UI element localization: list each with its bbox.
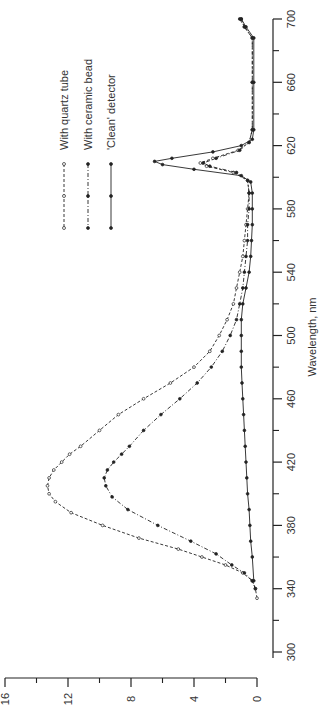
data-point-marker <box>248 208 251 211</box>
data-point-marker <box>226 318 229 321</box>
data-point-marker <box>248 271 251 274</box>
data-point-marker <box>104 484 107 487</box>
series-line <box>155 19 254 581</box>
data-point-marker <box>243 429 246 432</box>
data-point-marker <box>68 453 71 456</box>
wavelength-tick-label: 500 <box>285 326 297 344</box>
data-point-marker <box>120 453 123 456</box>
data-point-marker <box>243 572 246 575</box>
legend: With quartz tubeWith ceramic bead'Clean'… <box>58 59 117 230</box>
series-layer <box>46 18 258 600</box>
data-point-marker <box>235 287 238 290</box>
data-point-marker <box>161 163 164 166</box>
intensity-tick-label: 0 <box>251 696 263 702</box>
data-point-marker <box>193 366 196 369</box>
legend-marker <box>63 227 66 230</box>
data-point-marker <box>201 556 204 559</box>
data-point-marker <box>224 564 227 567</box>
data-point-marker <box>242 413 245 416</box>
legend-marker <box>110 195 113 198</box>
data-point-marker <box>246 223 249 226</box>
legend-item: With ceramic bead <box>82 59 94 230</box>
data-point-marker <box>254 587 257 590</box>
data-point-marker <box>240 174 243 177</box>
legend-marker <box>63 163 66 166</box>
legend-label: 'Clean' detector <box>105 74 117 150</box>
data-point-marker <box>48 477 51 480</box>
legend-item: 'Clean' detector <box>105 74 117 230</box>
data-point-marker <box>210 366 213 369</box>
data-point-marker <box>243 239 246 242</box>
data-point-marker <box>106 469 109 472</box>
data-point-marker <box>248 192 251 195</box>
data-point-marker <box>240 318 243 321</box>
data-point-marker <box>142 429 145 432</box>
data-point-marker <box>238 271 241 274</box>
data-point-marker <box>111 496 114 499</box>
data-point-marker <box>232 303 235 306</box>
data-point-marker <box>212 151 215 154</box>
data-point-marker <box>171 157 174 160</box>
data-point-marker <box>256 597 259 600</box>
data-point-marker <box>241 382 244 385</box>
data-point-marker <box>112 461 115 464</box>
data-point-marker <box>244 445 247 448</box>
data-point-marker <box>177 548 180 551</box>
data-point-marker <box>240 350 243 353</box>
legend-label: With quartz tube <box>58 70 70 150</box>
data-point-marker <box>103 477 106 480</box>
intensity-tick-label: 12 <box>62 693 74 705</box>
data-point-marker <box>218 334 221 337</box>
data-point-marker <box>245 287 248 290</box>
series-line <box>48 19 258 598</box>
data-point-marker <box>252 579 255 582</box>
data-point-marker <box>251 192 254 195</box>
data-point-marker <box>249 540 252 543</box>
legend-marker <box>110 227 113 230</box>
data-point-marker <box>202 162 205 165</box>
legend-marker <box>110 163 113 166</box>
data-point-marker <box>101 524 104 527</box>
data-point-marker <box>249 524 252 527</box>
data-point-marker <box>249 255 252 258</box>
data-point-marker <box>160 413 163 416</box>
data-point-marker <box>252 128 255 131</box>
data-point-marker <box>240 18 243 21</box>
data-point-marker <box>241 287 244 290</box>
data-point-marker <box>98 429 101 432</box>
intensity-tick-label: 8 <box>125 696 137 702</box>
data-point-marker <box>238 149 241 152</box>
intensity-tick-label: 16 <box>0 693 11 705</box>
data-point-marker <box>189 540 192 543</box>
data-point-marker <box>46 484 49 487</box>
data-point-marker <box>245 255 248 258</box>
data-point-marker <box>252 81 255 84</box>
data-point-marker <box>246 239 249 242</box>
data-point-marker <box>249 181 252 184</box>
data-point-marker <box>52 469 55 472</box>
data-point-marker <box>245 461 248 464</box>
data-point-marker <box>128 445 131 448</box>
data-point-marker <box>193 168 196 171</box>
data-point-marker <box>117 413 120 416</box>
data-point-marker <box>240 334 243 337</box>
data-point-marker <box>250 239 253 242</box>
wavelength-tick-label: 460 <box>285 390 297 408</box>
data-point-marker <box>251 208 254 211</box>
data-point-marker <box>208 350 211 353</box>
data-point-marker <box>54 500 57 503</box>
data-point-marker <box>199 162 202 165</box>
data-point-marker <box>251 223 254 226</box>
data-point-marker <box>240 366 243 369</box>
wavelength-tick-label: 660 <box>285 73 297 91</box>
wavelength-tick-label: 340 <box>285 580 297 598</box>
data-point-marker <box>215 553 218 556</box>
legend-marker <box>63 195 66 198</box>
wavelength-tick-label: 700 <box>285 10 297 28</box>
data-point-marker <box>241 303 244 306</box>
rotated-line-chart: 300340380420460500540580620660700 048121… <box>0 0 326 714</box>
wavelength-tick-label: 380 <box>285 516 297 534</box>
data-point-marker <box>240 144 243 147</box>
data-point-marker <box>241 397 244 400</box>
data-point-marker <box>70 511 73 514</box>
